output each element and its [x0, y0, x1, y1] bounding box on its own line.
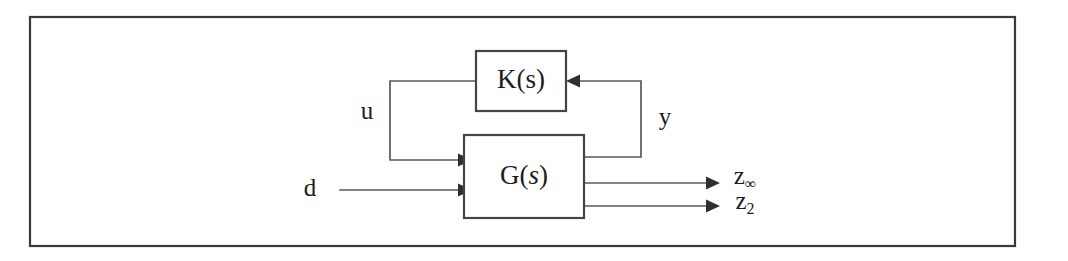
wire-y-path [580, 81, 641, 157]
figure-canvas: K(s) G(s) u y d z∞ z2 [0, 0, 1068, 261]
z-two-subscript: 2 [747, 200, 755, 217]
signal-label-y: y [659, 103, 672, 130]
signal-label-d: d [304, 174, 317, 201]
z-inf-subscript: ∞ [745, 175, 756, 192]
z-inf-base: z [734, 162, 745, 189]
arrowhead-z-two [706, 200, 720, 213]
signal-label-u: u [361, 97, 374, 124]
plant-label-var: s [528, 160, 539, 190]
arrowhead-z-inf [706, 177, 720, 190]
z-two-base: z [735, 187, 746, 214]
block-diagram: K(s) G(s) u y d z∞ z2 [0, 0, 1068, 261]
controller-label-main: K( [497, 64, 526, 94]
controller-label-var: s [525, 64, 536, 94]
plant-label-close: ) [539, 160, 548, 190]
controller-label-close: ) [536, 64, 545, 94]
arrowhead-y-into-controller [566, 75, 580, 88]
block-plant-label: G(s) [500, 160, 548, 190]
plant-label-main: G( [500, 160, 529, 190]
block-controller-label: K(s) [497, 64, 545, 94]
